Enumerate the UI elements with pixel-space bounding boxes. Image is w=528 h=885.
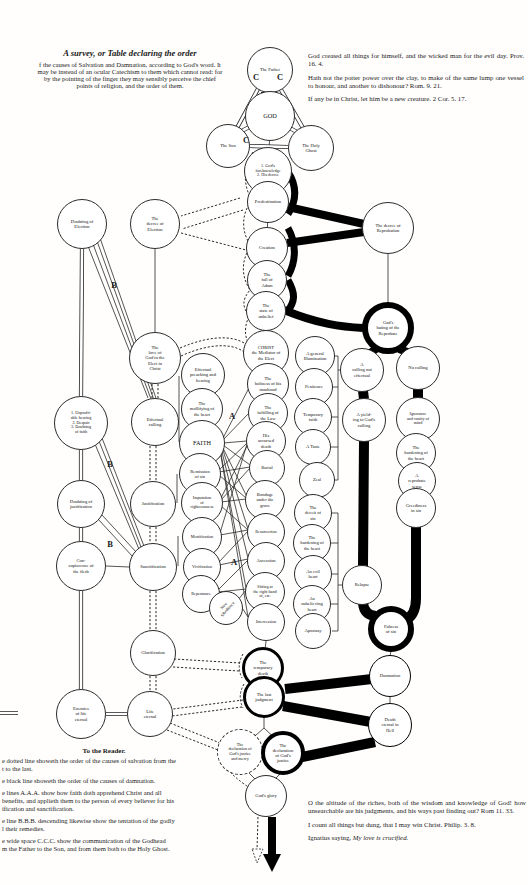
node-last-judgment: The last judgment [243, 676, 285, 718]
salvation-arrow-shaft [257, 817, 258, 850]
node-declaration-justice-mercy: The declaration of God's justice and mer… [217, 729, 263, 775]
node-new-obedience: New Obedience [209, 591, 243, 625]
label-c-2: C [277, 72, 283, 82]
node-sanctification: Sanctification [129, 543, 177, 591]
node-predestination: Predestination [247, 181, 289, 223]
quote-cor: If any be in Christ, let him be a new cr… [308, 95, 524, 103]
scripture-quotes-bottom: O the altitude of the riches, both of th… [308, 799, 526, 847]
reader-heading: To the Reader. [2, 747, 206, 755]
node-the-father: The Father [247, 47, 293, 93]
damnation-arrow-head [263, 854, 281, 872]
page-subtitle: f the causes of Salvation and Damnation,… [2, 61, 258, 89]
quote-ignatius-prefix: Ignatius saying, [308, 834, 353, 841]
quote-philip: I count all things but dung, that I may … [308, 821, 526, 829]
node-love-of-god-to-elect: The love of God to the Elect in Christ [129, 332, 181, 384]
node-relapse: Relapse [342, 565, 382, 605]
label-b-3: B [107, 539, 113, 549]
node-damnation: Damnation [369, 655, 411, 697]
node-yielding-to-gods-calling: A yield- ing to God's calling [342, 398, 386, 442]
reader-note-b: e line B.B.B. descending likewise show t… [2, 817, 206, 833]
node-life-eternal: Life eternal [127, 691, 173, 737]
node-no-calling: No calling [396, 346, 440, 390]
title-block: A survey, or Table declaring the order f… [2, 48, 258, 89]
node-god: GOD [245, 91, 295, 141]
reader-note-black: e black line showeth the order of the ca… [2, 777, 206, 785]
node-unprofitable-hearing: 1. Unprofit- able hearing 2. Despair 3. … [54, 396, 108, 450]
node-the-son: The Son [206, 124, 250, 168]
node-effectual-calling: Effectual calling [131, 398, 179, 446]
label-c-1: C [253, 72, 259, 82]
node-glorification: Glorification [130, 630, 176, 676]
quote-rom: Hath not the potter power over the clay,… [308, 74, 524, 91]
node-death-eternal-in-hell: Death eternal in Hell [368, 703, 412, 747]
quote-prov: God created all things for himself, and … [308, 52, 524, 69]
node-enemies-of-life-eternal: Enemies of life eternal [56, 689, 106, 739]
label-b-2: B [107, 459, 113, 469]
damnation-arrow [263, 817, 281, 872]
quote-ignatius-italic: My love is crucified. [353, 834, 409, 841]
quote-ignatius: Ignatius saying, My love is crucified. [308, 834, 526, 842]
node-justification: Justification [130, 481, 176, 527]
node-the-holy-ghost: The Holy Ghost [288, 125, 334, 171]
node-declaration-of-gods-justice: The declaration of God's justice [261, 731, 305, 775]
node-apostasy: Apostasy [295, 613, 331, 649]
salvation-arrow-head [252, 849, 263, 863]
to-the-reader-block: To the Reader. e dotted line showeth the… [2, 747, 206, 857]
node-decree-of-election: The decree of Election [130, 199, 180, 249]
node-intercession: Intercession [247, 603, 285, 641]
node-fulness-of-sin: Fulness of sin [368, 606, 414, 652]
node-greediness-in-sin: Greediness in sin [396, 488, 436, 528]
scripture-quotes-top: God created all things for himself, and … [308, 52, 524, 108]
quote-rom11: O the altitude of the riches, both of th… [308, 799, 526, 816]
node-decree-of-reprobation: The decree of Reprobation [362, 202, 414, 254]
label-a-1: A [229, 411, 235, 421]
node-doubting-of-election: Doubting of Election [57, 199, 107, 249]
reader-note-c: e wide space C.C.C. show the communicati… [2, 837, 206, 853]
node-gods-hating-of-reprobate: God's hating of the Reprobate [362, 302, 414, 354]
node-a-taste: A Taste [295, 429, 331, 465]
node-concupiscence: Con- cupiscence of the flesh [56, 541, 106, 591]
label-c-3: C [243, 135, 249, 145]
node-state-of-unbelief: The state of unbelief [246, 291, 286, 331]
reader-note-dotted: e dotted line showeth the order of the c… [2, 757, 206, 773]
label-a-2: A [231, 557, 237, 567]
node-gods-glory: God's glory [245, 775, 287, 817]
salvation-arrow [252, 817, 263, 863]
node-doubting-of-justification: Doubting of justification [57, 480, 105, 528]
survey-table-page: A survey, or Table declaring the order f… [0, 0, 528, 885]
page-title: A survey, or Table declaring the order [2, 48, 258, 58]
node-calling-not-effectual: A calling not effectual [340, 348, 384, 392]
reader-note-a: e lines A.A.A. show how faith doth appre… [2, 789, 206, 813]
node-new-obedience-label: New Obedience [216, 598, 235, 618]
label-b-1: B [111, 280, 117, 290]
node-zeal: Zeal [299, 462, 335, 498]
